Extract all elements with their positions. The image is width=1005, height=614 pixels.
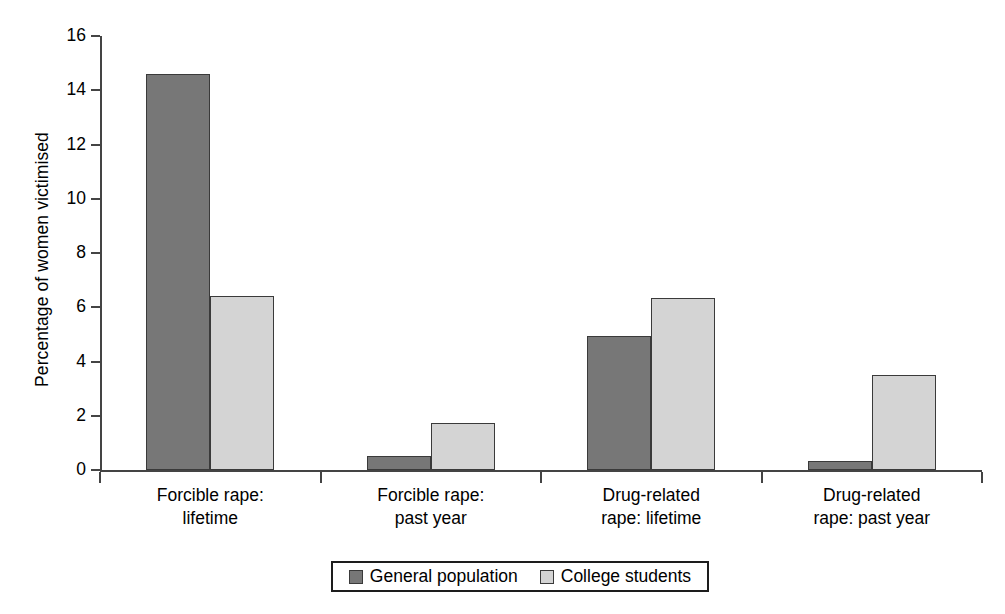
chart-legend: General population College students: [331, 561, 709, 592]
bar-college-students: [872, 375, 936, 470]
legend-entry-general-population: General population: [349, 568, 518, 586]
y-axis-tick: [91, 198, 100, 200]
dark-gray-swatch-icon: [349, 570, 363, 584]
y-axis-tick: [91, 469, 100, 471]
y-axis-tick: [91, 144, 100, 146]
x-axis-category-label: Drug-related rape: lifetime: [541, 484, 762, 530]
y-axis-tick-label: 2: [44, 407, 86, 425]
y-axis-tick-label: 16: [44, 27, 86, 45]
legend-label-college-students: College students: [561, 568, 691, 586]
x-axis-tick: [99, 472, 101, 483]
x-axis-category-label: Forcible rape: past year: [321, 484, 542, 530]
y-axis-tick-label: 4: [44, 353, 86, 371]
y-axis-tick-label: 14: [44, 81, 86, 99]
y-axis-tick-label: 10: [44, 190, 86, 208]
y-axis-tick: [91, 35, 100, 37]
x-axis-tick: [540, 472, 542, 483]
legend-label-general-population: General population: [370, 568, 518, 586]
bar-college-students: [651, 298, 715, 470]
x-axis-tick: [981, 472, 983, 483]
y-axis-tick-label: 6: [44, 298, 86, 316]
bar-general-population: [587, 336, 651, 470]
y-axis-tick-label: 0: [44, 461, 86, 479]
y-axis-tick: [91, 89, 100, 91]
bar-college-students: [210, 296, 274, 470]
legend-entry-college-students: College students: [540, 568, 691, 586]
bar-general-population: [367, 456, 431, 470]
y-axis-tick-label: 8: [44, 244, 86, 262]
bar-college-students: [431, 423, 495, 470]
bar-chart-figure: Percentage of women victimised 024681012…: [0, 0, 1005, 614]
light-gray-swatch-icon: [540, 570, 554, 584]
bar-general-population: [146, 74, 210, 470]
x-axis-tick: [761, 472, 763, 483]
bar-general-population: [808, 461, 872, 470]
y-axis-tick: [91, 415, 100, 417]
x-axis-category-label: Forcible rape: lifetime: [100, 484, 321, 530]
y-axis-tick-label: 12: [44, 136, 86, 154]
plot-area: [100, 36, 982, 470]
y-axis-tick: [91, 306, 100, 308]
x-axis-category-label: Drug-related rape: past year: [762, 484, 983, 530]
y-axis-tick: [91, 252, 100, 254]
y-axis-tick: [91, 361, 100, 363]
x-axis-tick: [320, 472, 322, 483]
